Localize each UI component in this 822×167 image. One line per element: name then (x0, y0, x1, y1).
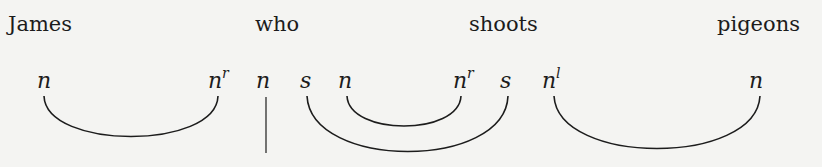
type-n-pigeons: n (749, 68, 763, 93)
type-n-who-inner: n (338, 68, 352, 93)
type-superscript-r: r (467, 65, 475, 81)
word-who: who (255, 12, 299, 36)
cup-nl-n-pigeons (554, 96, 760, 149)
word-shoots: shoots (469, 12, 538, 36)
pregroup-diagram: James who shoots pigeons n n r n s n n r… (0, 0, 822, 167)
type-n-who-output: n (256, 68, 270, 93)
type-n-right-adjoint-shoots: n (453, 68, 467, 93)
type-s-who: s (300, 68, 311, 93)
type-n-james: n (37, 68, 51, 93)
type-superscript-r: r (222, 65, 230, 81)
type-n-left-adjoint-shoots: n (542, 68, 556, 93)
type-superscript-l: l (556, 65, 560, 81)
word-james: James (6, 12, 72, 36)
type-s-shoots: s (500, 68, 511, 93)
type-n-right-adjoint-who: n (208, 68, 222, 93)
word-pigeons: pigeons (717, 12, 800, 36)
type-row: n n r n s n n r s n l n (37, 65, 763, 93)
cup-outer-s-s (307, 96, 508, 152)
cup-inner-n-nr (347, 96, 461, 126)
cup-james-n-nr (44, 96, 218, 137)
word-row: James who shoots pigeons (6, 12, 800, 36)
reduction-links (44, 96, 760, 152)
